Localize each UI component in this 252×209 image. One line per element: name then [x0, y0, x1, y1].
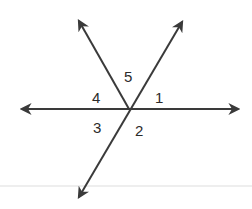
- angle-label-4: 4: [92, 89, 100, 106]
- angle-diagram: 5 1 4 3 2: [0, 0, 252, 209]
- angle-label-2: 2: [135, 122, 143, 139]
- angle-label-5: 5: [124, 68, 132, 85]
- diagram-svg: 5 1 4 3 2: [0, 0, 252, 209]
- angle-label-3: 3: [93, 119, 101, 136]
- upper-left-ray-line: [79, 21, 129, 109]
- angle-label-1: 1: [155, 89, 163, 106]
